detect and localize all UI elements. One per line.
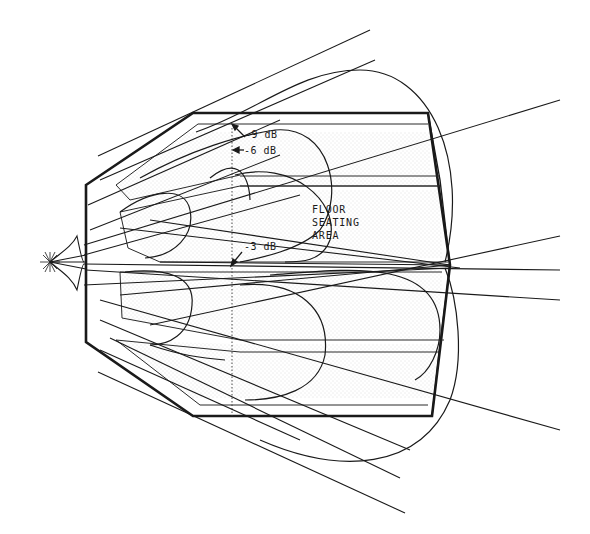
- speaker-horn: [50, 236, 86, 290]
- label-minus-3-db: -3 dB: [244, 241, 277, 252]
- area-label-line2: SEATING: [312, 216, 360, 229]
- label-minus-6-db: -6 dB: [244, 145, 277, 156]
- area-label-line3: AREA: [312, 229, 360, 242]
- area-label-line1: FLOOR: [312, 203, 360, 216]
- coverage-diagram: [0, 0, 590, 534]
- label-minus-9-db: -9 dB: [245, 129, 278, 140]
- floor-seating-area-label: FLOOR SEATING AREA: [312, 203, 360, 242]
